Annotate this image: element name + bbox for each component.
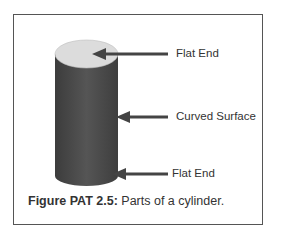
figure-caption: Figure PAT 2.5: Parts of a cylinder. xyxy=(28,195,224,208)
label-flat-end-top: Flat End xyxy=(176,48,219,60)
cylinder-shape xyxy=(55,40,118,186)
arrow-bottom xyxy=(112,168,168,180)
label-curved-surface: Curved Surface xyxy=(176,111,256,123)
label-flat-end-bottom: Flat End xyxy=(172,168,215,180)
caption-text: Parts of a cylinder. xyxy=(121,194,224,208)
arrow-top xyxy=(92,48,168,60)
caption-number: Figure PAT 2.5: xyxy=(28,194,118,208)
arrow-middle xyxy=(116,111,168,123)
